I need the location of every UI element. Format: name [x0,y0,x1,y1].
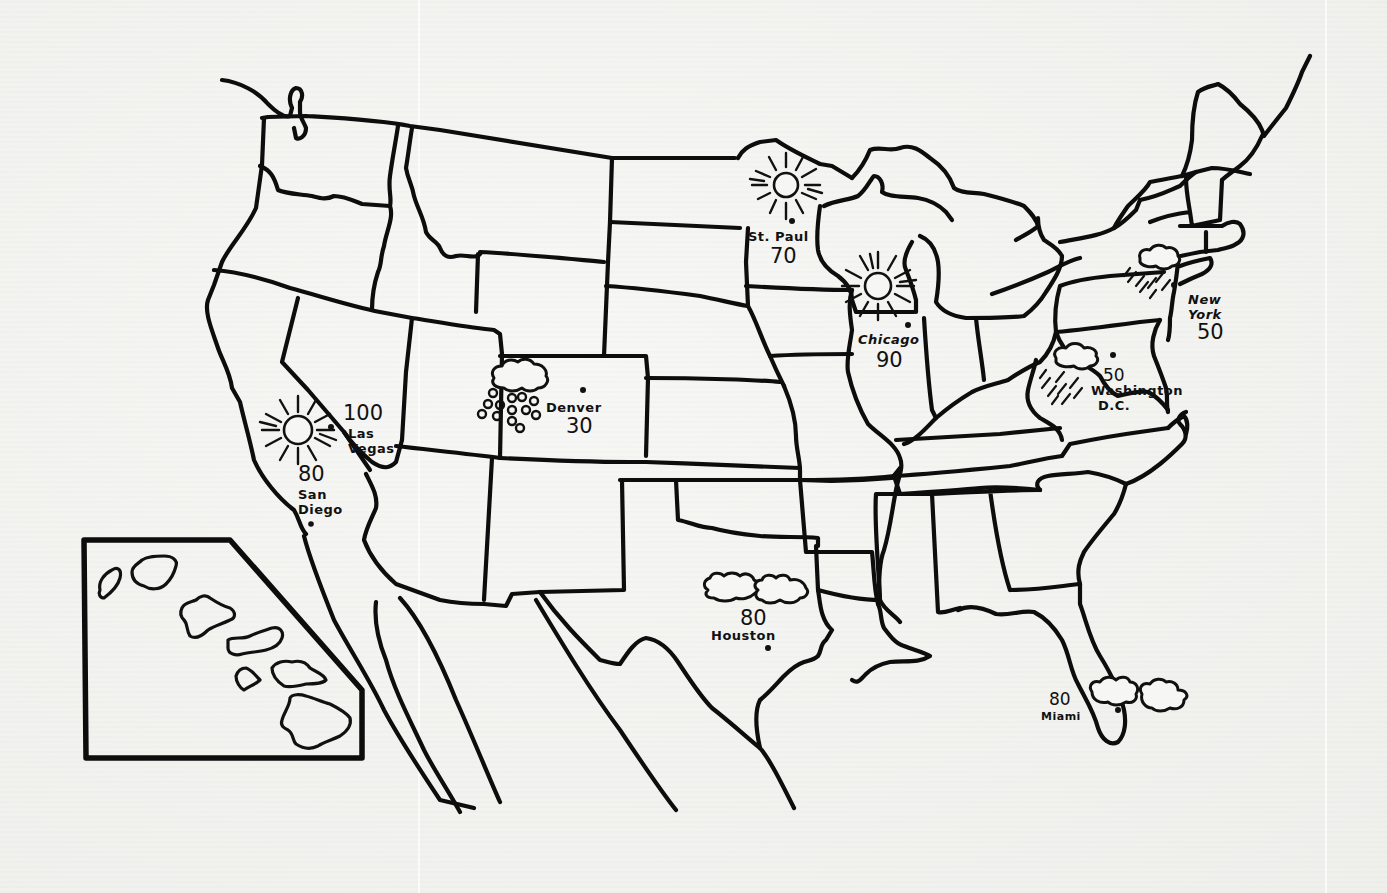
cloud-icon [1090,677,1186,711]
city-name: Washington [1091,384,1183,397]
sun-icon [750,153,822,219]
city-dot-chicago [905,322,911,328]
city-dot-st-paul [789,218,795,224]
city-temp: 50 [1103,367,1125,384]
city-dot-new-york [1171,282,1177,288]
city-dot-denver [580,387,586,393]
us-map-outline [0,0,1387,893]
city-temp: 70 [770,246,797,267]
hawaii-inset [84,540,362,758]
city-temp: 100 [343,403,383,424]
city-dot-houston [765,645,771,651]
city-name: Miami [1041,711,1081,722]
city-temp: 80 [298,464,325,485]
city-dot-san-diego [308,521,314,527]
city-temp: 90 [876,350,903,371]
city-dot-washington-dc [1110,352,1116,358]
weather-map: St. Paul 70 Chicago 90 100 Las Vegas 80 … [0,0,1387,893]
city-dot-miami [1115,707,1121,713]
city-name: San Diego [298,487,354,517]
city-temp: 80 [1049,691,1071,708]
city-name: New York [1188,292,1234,322]
city-name: Las Vegas [348,426,388,456]
city-name: D.C. [1098,399,1130,412]
snow-cloud-icon [478,359,548,432]
city-name: St. Paul [748,230,809,243]
city-temp: 30 [566,416,593,437]
city-dot-las-vegas [328,424,334,430]
cloud-icon [704,573,807,603]
city-name: Chicago [858,333,919,346]
city-temp: 80 [740,608,767,629]
city-name: Denver [546,401,602,414]
city-name: Houston [711,629,776,642]
city-temp: 50 [1197,322,1224,343]
